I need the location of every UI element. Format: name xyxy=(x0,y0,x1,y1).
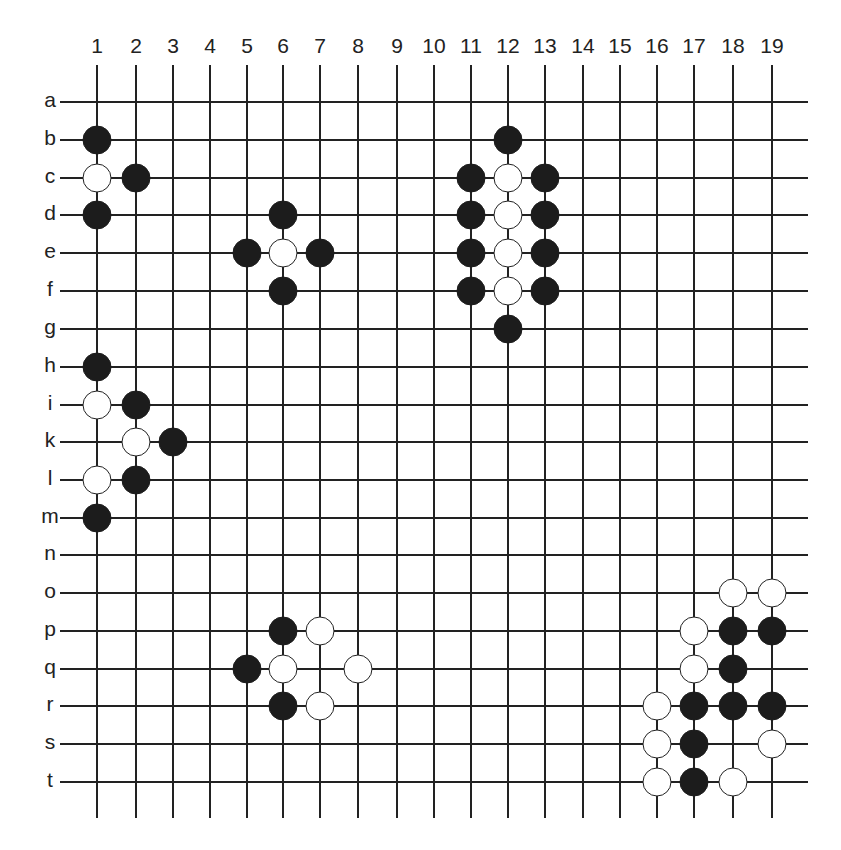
white-stone-p7 xyxy=(306,617,335,646)
black-stone-g12 xyxy=(494,315,523,344)
white-stone-r16 xyxy=(643,692,672,721)
black-stone-b1 xyxy=(83,126,112,155)
black-stone-h1 xyxy=(83,353,112,382)
row-label: b xyxy=(44,126,56,150)
white-stone-k2 xyxy=(122,428,151,457)
column-label: 18 xyxy=(721,34,744,58)
column-label: 6 xyxy=(277,34,289,58)
row-label: a xyxy=(44,88,56,112)
black-stone-p18 xyxy=(719,617,748,646)
row-label: k xyxy=(45,428,56,452)
black-stone-c13 xyxy=(531,164,560,193)
black-stone-t17 xyxy=(680,768,709,797)
black-stone-e7 xyxy=(306,239,335,268)
row-label: o xyxy=(44,579,56,603)
white-stone-e6 xyxy=(269,239,298,268)
column-label: 13 xyxy=(533,34,556,58)
black-stone-c2 xyxy=(122,164,151,193)
white-stone-f12 xyxy=(494,277,523,306)
black-stone-i2 xyxy=(122,391,151,420)
white-stone-r7 xyxy=(306,692,335,721)
white-stone-o19 xyxy=(758,579,787,608)
row-label: p xyxy=(44,617,56,641)
column-label: 5 xyxy=(241,34,253,58)
black-stone-d1 xyxy=(83,201,112,230)
black-stone-d6 xyxy=(269,201,298,230)
black-stone-q5 xyxy=(233,655,262,684)
black-stone-k3 xyxy=(159,428,188,457)
black-stone-c11 xyxy=(457,164,486,193)
white-stone-l1 xyxy=(83,466,112,495)
column-label: 3 xyxy=(167,34,179,58)
column-label: 10 xyxy=(422,34,445,58)
grid-line-horizontal xyxy=(60,517,808,519)
column-label: 7 xyxy=(314,34,326,58)
white-stone-t18 xyxy=(719,768,748,797)
black-stone-r18 xyxy=(719,692,748,721)
white-stone-c12 xyxy=(494,164,523,193)
white-stone-q8 xyxy=(344,655,373,684)
white-stone-c1 xyxy=(83,164,112,193)
row-label: l xyxy=(48,466,53,490)
black-stone-f6 xyxy=(269,277,298,306)
grid-line-horizontal xyxy=(60,139,808,141)
grid-line-horizontal xyxy=(60,101,808,103)
white-stone-s19 xyxy=(758,730,787,759)
grid-line-horizontal xyxy=(60,592,808,594)
column-label: 12 xyxy=(496,34,519,58)
black-stone-s17 xyxy=(680,730,709,759)
column-label: 4 xyxy=(204,34,216,58)
row-label: q xyxy=(44,655,56,679)
black-stone-f13 xyxy=(531,277,560,306)
grid-line-horizontal xyxy=(60,328,808,330)
white-stone-d12 xyxy=(494,201,523,230)
row-label: e xyxy=(44,239,56,263)
column-label: 16 xyxy=(645,34,668,58)
black-stone-e11 xyxy=(457,239,486,268)
black-stone-d11 xyxy=(457,201,486,230)
grid-line-horizontal xyxy=(60,177,808,179)
column-label: 19 xyxy=(760,34,783,58)
grid-line-horizontal xyxy=(60,479,808,481)
column-label: 11 xyxy=(460,34,482,58)
row-label: s xyxy=(45,730,56,754)
row-label: t xyxy=(47,768,53,792)
black-stone-e13 xyxy=(531,239,560,268)
column-label: 9 xyxy=(391,34,403,58)
column-label: 14 xyxy=(571,34,594,58)
column-label: 1 xyxy=(91,34,103,58)
black-stone-p6 xyxy=(269,617,298,646)
white-stone-o18 xyxy=(719,579,748,608)
black-stone-p19 xyxy=(758,617,787,646)
white-stone-t16 xyxy=(643,768,672,797)
row-label: r xyxy=(47,692,54,716)
row-label: g xyxy=(44,315,56,339)
grid-line-horizontal xyxy=(60,366,808,368)
go-board: 12345678910111213141516171819abcdefghikl… xyxy=(0,0,841,850)
row-label: h xyxy=(44,353,56,377)
black-stone-q18 xyxy=(719,655,748,684)
column-label: 8 xyxy=(352,34,364,58)
black-stone-r17 xyxy=(680,692,709,721)
column-label: 17 xyxy=(682,34,705,58)
black-stone-r19 xyxy=(758,692,787,721)
grid-line-horizontal xyxy=(60,554,808,556)
row-label: m xyxy=(41,504,59,528)
row-label: d xyxy=(44,201,56,225)
black-stone-r6 xyxy=(269,692,298,721)
grid-line-horizontal xyxy=(60,290,808,292)
grid-line-horizontal xyxy=(60,252,808,254)
grid-line-horizontal xyxy=(60,214,808,216)
row-label: f xyxy=(47,277,53,301)
row-label: n xyxy=(44,541,56,565)
column-label: 15 xyxy=(608,34,631,58)
black-stone-b12 xyxy=(494,126,523,155)
row-label: i xyxy=(48,391,53,415)
white-stone-p17 xyxy=(680,617,709,646)
white-stone-q6 xyxy=(269,655,298,684)
column-label: 2 xyxy=(130,34,142,58)
white-stone-e12 xyxy=(494,239,523,268)
black-stone-f11 xyxy=(457,277,486,306)
black-stone-d13 xyxy=(531,201,560,230)
grid-line-horizontal xyxy=(60,404,808,406)
